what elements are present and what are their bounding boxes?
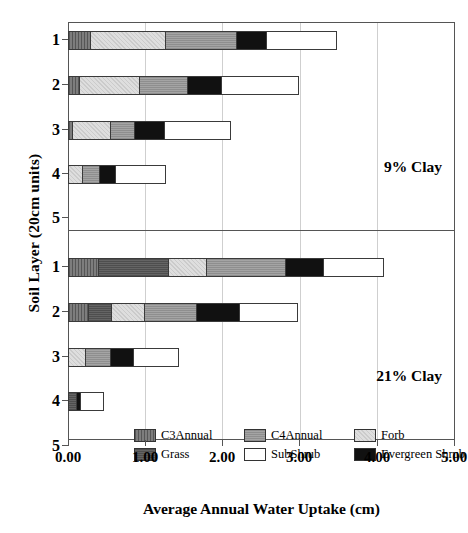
chart-root: Soil Layer (20cm units) 9% Clay 21% Clay… xyxy=(0,0,468,533)
bar-panel-1-layer-1 xyxy=(68,31,337,50)
bar-segment-subshrub xyxy=(164,121,231,140)
bar-segment-c3annual xyxy=(68,76,79,95)
bar-segment-evergreen-shrub xyxy=(110,348,133,367)
bar-segment-evergreen-shrub xyxy=(236,31,266,50)
x-tick-mark xyxy=(377,440,378,446)
y-tick-label-top-5: 5 xyxy=(34,209,60,227)
bar-segment-evergreen-shrub xyxy=(196,303,239,322)
bar-segment-subshrub xyxy=(133,348,179,367)
panel-annotation-bottom: 21% Clay xyxy=(376,367,442,385)
legend-label-forb: Forb xyxy=(381,428,405,443)
bar-panel-2-layer-1 xyxy=(68,258,384,277)
y-tick-label-bottom-4: 4 xyxy=(34,392,60,410)
x-tick-label-1: 1.00 xyxy=(115,449,175,466)
bar-segment-grass xyxy=(88,303,111,322)
bar-segment-evergreen-shrub xyxy=(99,165,115,184)
gridline-3 xyxy=(300,23,301,230)
bar-segment-c4annual xyxy=(110,121,134,140)
bar-segment-c4annual xyxy=(85,348,110,367)
bar-segment-c4annual xyxy=(206,258,285,277)
legend-item-forb: Forb xyxy=(354,428,405,443)
y-tick-label-top-1: 1 xyxy=(34,31,60,49)
bar-segment-forb xyxy=(68,165,82,184)
bar-segment-evergreen-shrub xyxy=(134,121,164,140)
x-tick-mark xyxy=(222,440,223,446)
x-tick-label-3: 3.00 xyxy=(269,449,329,466)
bar-segment-subshrub xyxy=(323,258,385,277)
bar-segment-forb xyxy=(90,31,165,50)
bar-panel-1-layer-2 xyxy=(68,76,299,95)
x-tick-label-2: 2.00 xyxy=(192,449,252,466)
bar-segment-c3annual xyxy=(68,258,98,277)
bar-segment-c3annual xyxy=(68,303,88,322)
panel-annotation-top: 9% Clay xyxy=(384,158,442,176)
x-tick-mark xyxy=(145,440,146,446)
bar-segment-forb xyxy=(68,348,85,367)
legend-item-c4annual: C4Annual xyxy=(244,428,322,443)
y-tick-mark xyxy=(62,217,68,218)
legend-swatch-forb xyxy=(354,429,376,442)
legend-label-c3annual: C3Annual xyxy=(161,428,212,443)
x-tick-label-4: 4.00 xyxy=(347,449,407,466)
bar-segment-forb xyxy=(72,121,110,140)
bar-segment-evergreen-shrub xyxy=(187,76,221,95)
legend-label-c4annual: C4Annual xyxy=(271,428,322,443)
bar-segment-evergreen-shrub xyxy=(285,258,323,277)
y-tick-label-bottom-2: 2 xyxy=(34,303,60,321)
bar-segment-subshrub xyxy=(221,76,299,95)
y-tick-label-bottom-3: 3 xyxy=(34,348,60,366)
y-tick-label-top-3: 3 xyxy=(34,121,60,139)
x-tick-mark xyxy=(68,440,69,446)
bar-panel-2-layer-4 xyxy=(68,392,104,411)
bar-segment-forb xyxy=(111,303,144,322)
bar-segment-subshrub xyxy=(266,31,337,50)
gridline-4 xyxy=(377,23,378,230)
y-tick-label-bottom-1: 1 xyxy=(34,258,60,276)
y-tick-label-top-2: 2 xyxy=(34,76,60,94)
bar-panel-1-layer-3 xyxy=(68,121,231,140)
bar-panel-2-layer-3 xyxy=(68,348,179,367)
legend-swatch-c4annual xyxy=(244,429,266,442)
bar-segment-c4annual xyxy=(139,76,187,95)
bar-segment-subshrub xyxy=(80,392,104,411)
x-tick-label-5: 5.00 xyxy=(424,449,468,466)
bar-segment-c4annual xyxy=(144,303,196,322)
y-tick-label-top-4: 4 xyxy=(34,165,60,183)
bar-segment-c3annual xyxy=(68,31,90,50)
x-axis-title: Average Annual Water Uptake (cm) xyxy=(68,500,455,518)
bar-segment-subshrub xyxy=(115,165,166,184)
bar-panel-1-layer-4 xyxy=(68,165,166,184)
bar-segment-c4annual xyxy=(165,31,235,50)
x-tick-mark xyxy=(454,440,455,446)
bar-segment-forb xyxy=(79,76,139,95)
bar-segment-c4annual xyxy=(82,165,99,184)
bar-segment-grass xyxy=(98,258,168,277)
x-tick-label-0: 0.00 xyxy=(38,449,98,466)
bar-segment-forb xyxy=(168,258,206,277)
bar-segment-subshrub xyxy=(239,303,298,322)
x-tick-mark xyxy=(299,440,300,446)
bar-segment-grass xyxy=(68,392,76,411)
bar-panel-2-layer-2 xyxy=(68,303,298,322)
